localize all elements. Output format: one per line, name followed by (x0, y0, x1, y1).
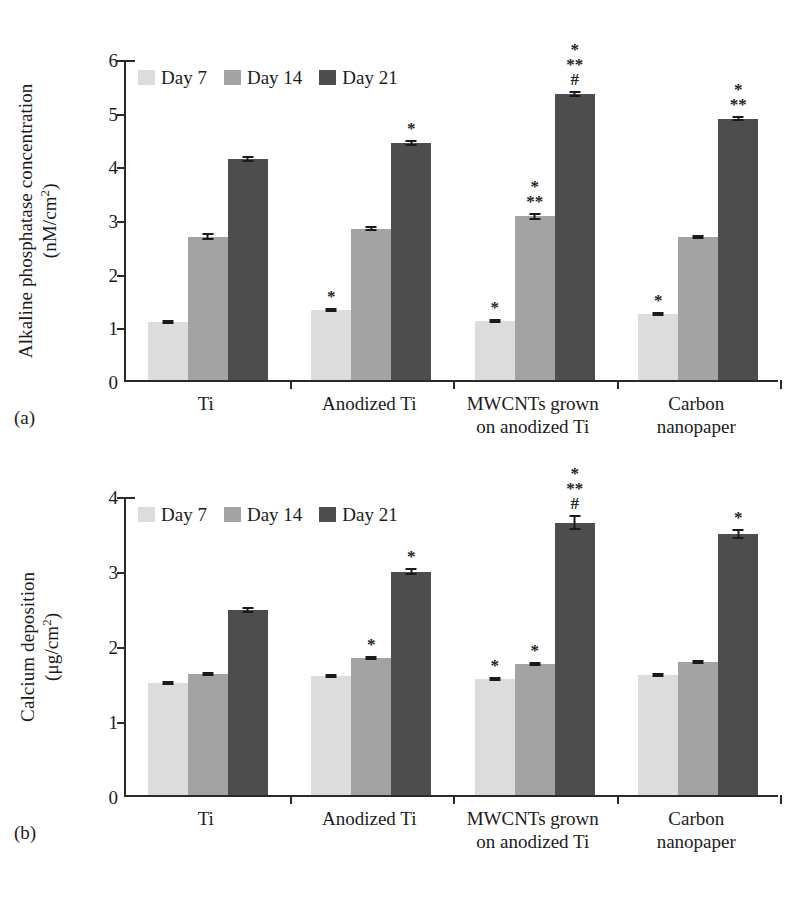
x-axis-label-line: Anodized Ti (288, 807, 452, 830)
bar-ti-day-14 (188, 674, 228, 795)
error-bar-cap-bottom (162, 683, 173, 685)
significance-annotation: *** (730, 82, 747, 112)
error-bar (162, 320, 173, 324)
legend-label: Day 7 (161, 68, 207, 87)
significance-mark: * (367, 637, 376, 652)
y-tick-label-3: 3 (109, 563, 119, 582)
error-bar-cap-bottom (733, 119, 744, 121)
bar-ti-day-7 (148, 322, 188, 380)
y-tick-label-1: 1 (109, 319, 119, 338)
panel-a: Alkaline phosphatase concentration(nM/cm… (0, 14, 803, 444)
error-bar-cap-bottom (733, 537, 744, 539)
significance-annotation: * (327, 289, 336, 304)
y-tick-1 (117, 722, 126, 724)
legend-item-day-7: Day 7 (138, 505, 207, 524)
legend-swatch-day-7 (138, 70, 155, 85)
error-bar-cap-top (366, 226, 377, 228)
bar-mwcnts-grown-on-anodized-ti-day-21 (555, 94, 595, 380)
error-bar (242, 607, 253, 613)
error-bar (326, 674, 337, 678)
x-axis-label-anodized-ti: Anodized Ti (288, 392, 452, 415)
y-axis-title-line2: (μg/cm2) (39, 467, 64, 827)
legend-item-day-14: Day 14 (224, 505, 302, 524)
error-bar (529, 662, 540, 667)
significance-annotation: * (407, 549, 416, 564)
x-axis-label-ti: Ti (124, 392, 288, 415)
bar-anodized-ti-day-21 (391, 572, 431, 796)
error-bar (202, 672, 213, 676)
significance-annotation: * (734, 510, 743, 525)
y-tick-5 (117, 114, 126, 116)
x-axis-label-line: Anodized Ti (288, 392, 452, 415)
significance-mark: * (327, 289, 336, 304)
y-axis-title-line2: (nM/cm2) (37, 30, 62, 412)
panel-a-legend: Day 7Day 14Day 21 (138, 68, 398, 87)
error-bar (693, 660, 704, 664)
y-tick-label-4: 4 (109, 158, 119, 177)
x-axis-group-separator (453, 380, 455, 389)
legend-item-day-14: Day 14 (224, 68, 302, 87)
significance-mark: * (491, 658, 500, 673)
error-bar-cap-bottom (489, 321, 500, 323)
y-tick-label-2: 2 (109, 265, 119, 284)
y-axis-top-cap (126, 497, 135, 499)
error-bar-cap-bottom (326, 310, 337, 312)
y-axis-top-cap (126, 60, 135, 62)
error-bar-cap-bottom (366, 229, 377, 231)
legend-swatch-day-14 (224, 507, 241, 522)
error-bar (202, 233, 213, 241)
legend-label: Day 21 (342, 505, 397, 524)
error-bar-cap-top (406, 568, 417, 570)
y-tick-1 (117, 328, 126, 330)
significance-annotation: * (367, 637, 376, 652)
significance-annotation: * (531, 643, 540, 658)
bar-carbon-nanopaper-day-14 (678, 237, 718, 380)
legend-swatch-day-7 (138, 507, 155, 522)
y-tick-label-1: 1 (109, 713, 119, 732)
significance-mark: * (491, 300, 500, 315)
y-tick-label-6: 6 (109, 51, 119, 70)
x-axis-group-separator (617, 795, 619, 804)
error-bar-cap-bottom (406, 573, 417, 575)
bar-carbon-nanopaper-day-14 (678, 662, 718, 795)
legend-item-day-21: Day 21 (319, 505, 397, 524)
legend-swatch-day-21 (319, 507, 336, 522)
error-bar (569, 515, 580, 530)
error-bar-cap-bottom (326, 676, 337, 678)
bar-mwcnts-grown-on-anodized-ti-day-7 (475, 321, 515, 380)
panel-b-label: (b) (14, 823, 36, 842)
bar-anodized-ti-day-7 (311, 676, 351, 795)
bar-ti-day-21 (228, 610, 268, 795)
legend-label: Day 14 (247, 68, 302, 87)
y-tick-label-0: 0 (109, 373, 119, 392)
error-bar (242, 156, 253, 162)
bar-mwcnts-grown-on-anodized-ti-day-7 (475, 679, 515, 795)
panel-a-label: (a) (14, 408, 35, 427)
error-bar-cap-bottom (202, 238, 213, 240)
y-tick-label-0: 0 (109, 788, 119, 807)
y-tick-2 (117, 275, 126, 277)
panel-b-plot-area: 01234*******#* (124, 497, 778, 797)
significance-mark: * (531, 643, 540, 658)
panel-b-legend: Day 7Day 14Day 21 (138, 505, 398, 524)
significance-mark: ** (526, 194, 543, 209)
bar-carbon-nanopaper-day-21 (718, 534, 758, 795)
error-bar-cap-top (733, 529, 744, 531)
significance-annotation: * (654, 293, 663, 308)
error-bar-cap-top (529, 213, 540, 215)
y-tick-label-4: 4 (109, 488, 119, 507)
x-axis-label-line: Carbon (615, 807, 779, 830)
error-bar-cap-bottom (406, 144, 417, 146)
error-bar (529, 213, 540, 219)
x-axis-end-tick (780, 380, 782, 389)
x-axis-end-tick (780, 795, 782, 804)
bar-carbon-nanopaper-day-21 (718, 119, 758, 380)
significance-annotation: ***# (566, 466, 583, 511)
y-tick-6 (117, 60, 126, 62)
bar-ti-day-21 (228, 159, 268, 380)
y-tick-2 (117, 647, 126, 649)
x-axis-label-line: on anodized Ti (451, 830, 615, 853)
error-bar-cap-top (733, 116, 744, 118)
error-bar-cap-bottom (202, 674, 213, 676)
error-bar-cap-bottom (693, 237, 704, 239)
